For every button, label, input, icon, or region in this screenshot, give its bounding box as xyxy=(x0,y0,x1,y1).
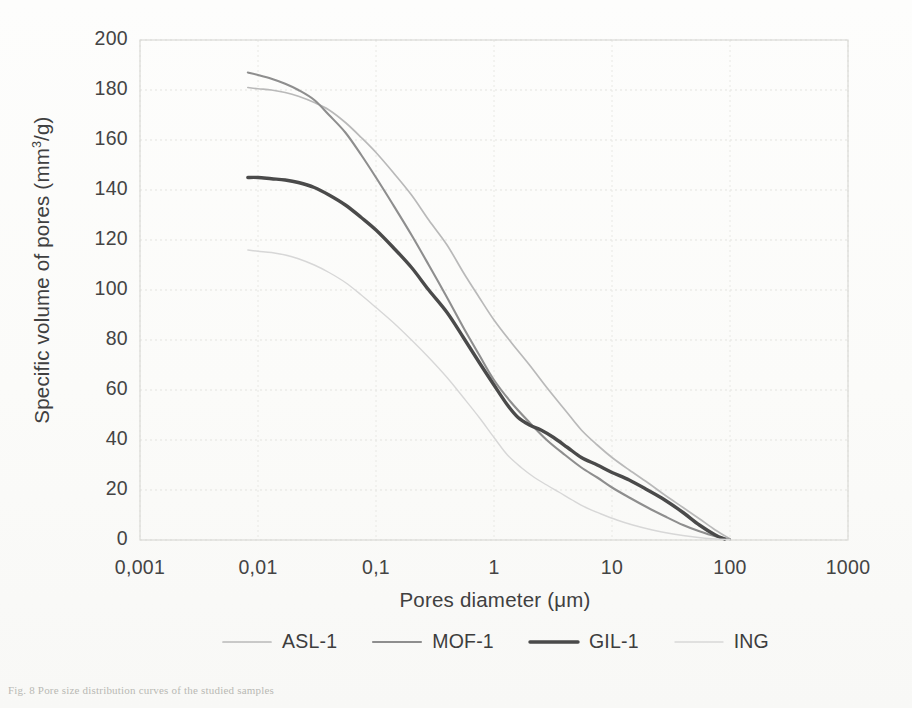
y-tick-label: 120 xyxy=(68,227,128,250)
y-axis-title-text: Specific volume of pores (mm xyxy=(30,148,53,424)
y-tick-label: 20 xyxy=(68,477,128,500)
legend-item-asl-1[interactable]: ASL-1 xyxy=(221,630,337,653)
y-tick-label: 180 xyxy=(68,77,128,100)
series-layer xyxy=(248,73,730,540)
x-tick-label: 0,01 xyxy=(203,556,313,579)
legend-swatch-gil-1 xyxy=(528,635,580,649)
x-tick-label: 100 xyxy=(675,556,785,579)
legend-label: ING xyxy=(734,630,769,653)
legend-label: MOF-1 xyxy=(432,630,494,653)
y-tick-label: 200 xyxy=(68,27,128,50)
legend-swatch-ing xyxy=(673,635,725,649)
x-axis-title: Pores diameter (μm) xyxy=(140,588,850,612)
y-tick-label: 40 xyxy=(68,427,128,450)
legend-item-ing[interactable]: ING xyxy=(673,630,769,653)
y-tick-label: 100 xyxy=(68,277,128,300)
y-axis-title-exponent: 3 xyxy=(30,141,44,148)
series-line-mof-1 xyxy=(248,73,730,540)
x-tick-label: 1 xyxy=(439,556,549,579)
y-axis-title-tail: /g) xyxy=(30,116,53,141)
y-tick-label: 60 xyxy=(68,377,128,400)
y-tick-label: 80 xyxy=(68,327,128,350)
x-tick-label: 0,1 xyxy=(321,556,431,579)
legend-label: ASL-1 xyxy=(282,630,337,653)
x-tick-label: 1000 xyxy=(793,556,903,579)
series-line-asl-1 xyxy=(248,88,730,539)
y-tick-label: 140 xyxy=(68,177,128,200)
gridlines xyxy=(140,40,848,540)
legend-item-mof-1[interactable]: MOF-1 xyxy=(371,630,494,653)
figure-pore-size-distribution: Specific volume of pores (mm3/g) Pores d… xyxy=(0,0,912,680)
legend-swatch-mof-1 xyxy=(371,635,423,649)
x-tick-label: 10 xyxy=(557,556,667,579)
legend-swatch-asl-1 xyxy=(221,635,273,649)
figure-caption: Fig. 8 Pore size distribution curves of … xyxy=(8,684,898,696)
series-line-gil-1 xyxy=(248,177,725,539)
legend-item-gil-1[interactable]: GIL-1 xyxy=(528,630,639,653)
y-axis-title: Specific volume of pores (mm3/g) xyxy=(30,60,54,480)
y-tick-label: 160 xyxy=(68,127,128,150)
x-tick-label: 0,001 xyxy=(85,556,195,579)
y-tick-label: 0 xyxy=(68,527,128,550)
legend-label: GIL-1 xyxy=(589,630,639,653)
chart-legend: ASL-1MOF-1GIL-1ING xyxy=(140,630,850,653)
